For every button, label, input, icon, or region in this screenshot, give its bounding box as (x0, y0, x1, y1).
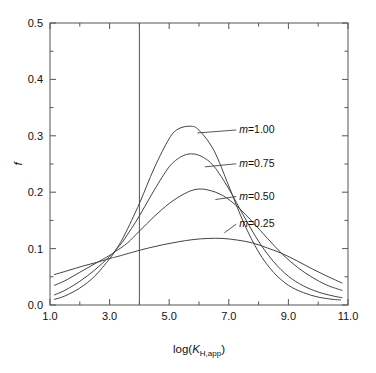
series-label-2: m=0.50 (239, 190, 274, 202)
x-tick-label: 11.0 (338, 310, 359, 322)
x-tick-label: 9.0 (281, 310, 296, 322)
chart-svg: 1.03.05.07.09.011.00.00.10.20.30.40.5 m=… (0, 0, 376, 373)
y-tick-label: 0.4 (28, 73, 43, 85)
y-tick-label: 0.1 (28, 243, 43, 255)
y-tick-label: 0.0 (28, 299, 43, 311)
x-tick-label: 5.0 (162, 310, 177, 322)
y-tick-label: 0.5 (28, 17, 43, 29)
series-label-0: m=1.00 (239, 123, 274, 135)
y-tick-label: 0.3 (28, 130, 43, 142)
series-label-1: m=0.75 (239, 157, 274, 169)
y-tick-label: 0.2 (28, 186, 43, 198)
x-tick-label: 3.0 (102, 310, 117, 322)
series-label-3: m=0.25 (239, 217, 274, 229)
x-tick-label: 7.0 (221, 310, 236, 322)
chart-figure: 1.03.05.07.09.011.00.00.10.20.30.40.5 m=… (0, 0, 376, 373)
x-tick-label: 1.0 (42, 310, 57, 322)
